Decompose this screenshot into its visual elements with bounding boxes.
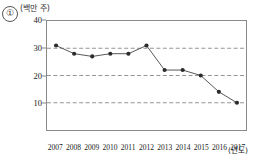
y-tick-label: 40 [2,15,46,25]
series-polyline [56,46,237,103]
y-tick-label: 10 [2,98,46,108]
y-tick-label: 20 [2,71,46,81]
data-point-marker: 2012: 31 [144,43,148,47]
data-point-marker: 2017: 10 [235,101,239,105]
data-point-marker: 2015: 20 [199,73,203,77]
data-point-marker: 2016: 14 [217,90,221,94]
x-tick-label: 2007 [48,143,63,152]
x-tick-label: 2016 [212,143,227,152]
x-axis-ticks: 2007200820092010201120122013201420152016… [46,143,247,157]
x-tick-label: 2009 [84,143,99,152]
y-axis-ticks: 40302010 [0,20,46,131]
x-tick-label: 2012 [139,143,154,152]
plot-area: 2007: 312008: 282009: 272010: 282011: 28… [46,20,247,131]
x-tick-label: 2013 [157,143,172,152]
data-point-marker: 2009: 27 [90,54,94,58]
y-axis-unit-label: (백만 주) [20,2,50,13]
x-tick-label: 2008 [66,143,81,152]
x-axis-unit-label: (년도) [228,144,248,155]
x-tick-label: 2014 [176,143,191,152]
x-tick-label: 2011 [121,143,136,152]
chart-figure: ① (백만 주) 40302010 2007: 312008: 282009: … [0,0,266,165]
data-point-marker: 2007: 31 [54,43,58,47]
data-point-marker: 2013: 22 [163,68,167,72]
data-series-line: 2007: 312008: 282009: 272010: 282011: 28… [47,21,246,130]
data-point-marker: 2011: 28 [126,52,130,56]
y-tick-label: 30 [2,43,46,53]
x-tick-label: 2010 [102,143,117,152]
data-point-marker: 2008: 28 [72,52,76,56]
x-tick-label: 2015 [194,143,209,152]
data-point-marker: 2014: 22 [181,68,185,72]
data-point-marker: 2010: 28 [108,52,112,56]
